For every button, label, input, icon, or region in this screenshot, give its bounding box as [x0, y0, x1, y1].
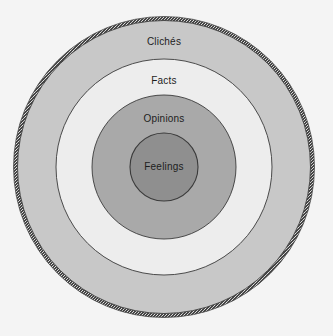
ring-feelings: [130, 133, 198, 201]
diagram-canvas: [0, 0, 333, 336]
concentric-circles-diagram: Clichés Facts Opinions Feelings: [0, 0, 333, 336]
